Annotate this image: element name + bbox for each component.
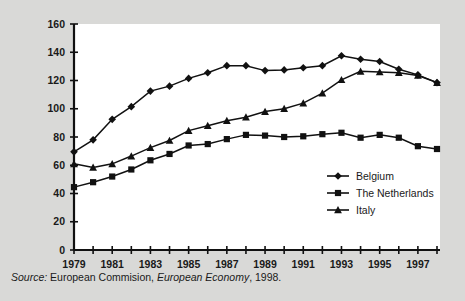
data-point xyxy=(262,132,268,138)
y-tick-label: 60 xyxy=(53,159,65,171)
y-tick-label: 20 xyxy=(53,215,65,227)
data-point xyxy=(224,136,230,142)
source-body: European Commision, xyxy=(47,271,157,283)
data-point xyxy=(186,142,192,148)
plot-area-background xyxy=(74,24,440,250)
x-tick-label: 1997 xyxy=(406,258,430,270)
y-tick-label: 100 xyxy=(47,102,65,114)
data-point xyxy=(434,146,440,152)
x-tick-label: 1993 xyxy=(330,258,354,270)
x-axis: 1979198119831985198719891991199319951997 xyxy=(62,246,440,270)
data-point xyxy=(396,135,402,141)
y-tick-label: 80 xyxy=(53,131,65,143)
data-point xyxy=(128,166,134,172)
source-prefix: Source: xyxy=(11,271,47,283)
y-tick-label: 120 xyxy=(47,74,65,86)
legend-label: Belgium xyxy=(356,170,394,182)
data-point xyxy=(166,151,172,157)
source-publication: European Economy xyxy=(157,271,249,283)
x-tick-label: 1981 xyxy=(101,258,125,270)
data-point xyxy=(243,132,249,138)
x-tick-label: 1983 xyxy=(139,258,163,270)
y-tick-label: 140 xyxy=(47,46,65,58)
source-note: Source: European Commision, European Eco… xyxy=(11,271,281,283)
x-tick-label: 1979 xyxy=(62,258,86,270)
legend-label: Italy xyxy=(356,204,376,216)
data-point xyxy=(71,184,77,190)
y-axis: 020406080100120140160 xyxy=(47,18,78,256)
legend-marker-square-icon xyxy=(335,190,341,196)
line-chart: 020406080100120140160 197919811983198519… xyxy=(0,0,465,301)
data-point xyxy=(357,135,363,141)
legend-label: The Netherlands xyxy=(356,187,434,199)
x-tick-label: 1985 xyxy=(177,258,201,270)
data-point xyxy=(415,143,421,149)
data-point xyxy=(300,133,306,139)
data-point xyxy=(281,134,287,140)
x-tick-label: 1989 xyxy=(253,258,277,270)
data-point xyxy=(205,141,211,147)
data-point xyxy=(147,157,153,163)
x-tick-label: 1991 xyxy=(292,258,316,270)
data-point xyxy=(377,132,383,138)
data-point xyxy=(319,131,325,137)
y-tick-label: 0 xyxy=(59,244,65,256)
figure-panel: 020406080100120140160 197919811983198519… xyxy=(0,0,465,301)
x-tick-label: 1995 xyxy=(368,258,392,270)
data-point xyxy=(90,179,96,185)
x-tick-label: 1987 xyxy=(215,258,239,270)
source-suffix: , 1998. xyxy=(249,271,281,283)
data-point xyxy=(109,173,115,179)
y-tick-label: 160 xyxy=(47,18,65,30)
y-tick-label: 40 xyxy=(53,187,65,199)
data-point xyxy=(338,130,344,136)
